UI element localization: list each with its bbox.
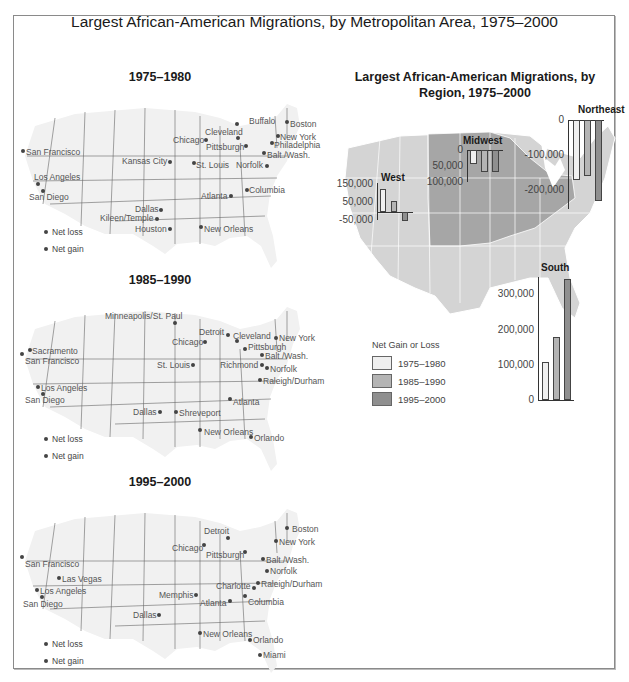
legend-dot-icon: [44, 454, 48, 458]
city-marker: [262, 151, 266, 155]
tick-label: 0: [403, 144, 463, 155]
city-label: Sacramento: [32, 347, 78, 356]
city-marker: [228, 599, 232, 603]
bar-south-2: [564, 279, 571, 400]
city-marker: [226, 333, 230, 337]
city-marker: [274, 539, 278, 543]
city-marker: [248, 638, 252, 642]
city-label: Kansas City: [122, 157, 167, 166]
bar-midwest-2: [492, 150, 499, 172]
legend-dot-icon: [44, 659, 48, 663]
city-marker: [252, 586, 256, 590]
city-marker: [191, 363, 195, 367]
legend-item-1985-1990: 1985–1990: [372, 374, 446, 388]
city-marker: [265, 569, 269, 573]
city-label: Norfolk: [236, 161, 263, 170]
city-label: Miami: [263, 651, 286, 660]
city-label: Kileen/Temple: [100, 214, 153, 223]
city-label: Boston: [292, 525, 318, 534]
city-marker: [159, 208, 163, 212]
legend-dot-icon: [44, 642, 48, 646]
city-marker: [260, 353, 264, 357]
city-label: San Diego: [25, 396, 65, 405]
map-title-0: 1975–1980: [30, 70, 290, 84]
region-label-northeast: Northeast: [578, 104, 625, 115]
y-axis: [538, 277, 539, 400]
legend-swatch: [372, 392, 392, 406]
city-label: Columbia: [248, 598, 284, 607]
tick-label: 150,000: [313, 178, 373, 189]
city-label: Minneapolis/St. Paul: [105, 312, 183, 321]
tick-label: -50,000: [313, 214, 373, 225]
city-label: Dallas: [133, 611, 157, 620]
city-marker: [168, 227, 172, 231]
bar-northeast-1: [584, 120, 591, 176]
city-label: Los Angeles: [40, 587, 86, 596]
city-label: New Orleans: [203, 630, 252, 639]
city-label: St. Louis: [157, 361, 190, 370]
city-label: Norfolk: [270, 365, 297, 374]
city-marker: [274, 336, 278, 340]
city-marker: [203, 340, 207, 344]
map-title-2: 1995–2000: [30, 475, 290, 489]
legend-dot-icon: [44, 247, 48, 251]
map-legend-gain: Net gain: [44, 451, 84, 461]
legend-label: 1985–1990: [398, 376, 446, 387]
legend-label: Net gain: [52, 656, 84, 666]
city-label: San Francisco: [26, 148, 80, 157]
city-label: Shreveport: [179, 409, 221, 418]
city-label: Norfolk: [270, 567, 297, 576]
bar-west-0: [380, 189, 386, 212]
bar-west-2: [402, 212, 408, 221]
city-label: Orlando: [254, 434, 284, 443]
tick-label: 0: [474, 394, 534, 405]
city-label: Las Vegas: [62, 575, 102, 584]
region-label-west: West: [381, 172, 405, 183]
city-label: Columbia: [249, 186, 285, 195]
city-marker: [249, 435, 253, 439]
tick-label: 50,000: [313, 196, 373, 207]
legend-label: Net gain: [52, 244, 84, 254]
city-label: Dallas: [133, 408, 157, 417]
legend-swatch: [372, 356, 392, 370]
city-marker: [198, 631, 202, 635]
map-title-1: 1985–1990: [30, 273, 290, 287]
city-label: Balt./Wash.: [265, 352, 308, 361]
bar-midwest-1: [481, 150, 488, 172]
city-label: New York: [279, 538, 315, 547]
city-marker: [21, 149, 25, 153]
legend-label: 1995–2000: [398, 394, 446, 405]
city-label: Buffalo: [249, 117, 275, 126]
city-marker: [258, 378, 262, 382]
city-label: Raleigh/Durham: [261, 580, 322, 589]
bar-south-1: [553, 337, 560, 400]
city-marker: [57, 576, 61, 580]
city-label: Pittsburgh: [206, 551, 244, 560]
city-label: New Orleans: [204, 225, 253, 234]
city-label: Los Angeles: [34, 173, 80, 182]
city-label: Atlanta: [233, 398, 259, 407]
legend-label: Net loss: [52, 639, 83, 649]
legend-item-1975-1980: 1975–1980: [372, 356, 446, 370]
city-label: Philadelphia: [274, 141, 320, 150]
main-title: Largest African-American Migrations, by …: [0, 13, 629, 31]
city-marker: [174, 410, 178, 414]
regional-title-line2: Region, 1975–2000: [340, 85, 610, 101]
city-marker: [155, 217, 159, 221]
city-label: Balt./Wash.: [267, 151, 310, 160]
tick-label: 50,000: [403, 160, 463, 171]
city-marker: [199, 225, 203, 229]
city-marker: [198, 428, 202, 432]
city-marker: [265, 164, 269, 168]
city-marker: [158, 410, 162, 414]
y-axis: [467, 150, 468, 182]
tick-label: 100,000: [474, 359, 534, 370]
legend-dot-icon: [44, 437, 48, 441]
legend-item-1995-2000: 1995–2000: [372, 392, 446, 406]
city-marker: [258, 653, 262, 657]
city-label: Los Angeles: [41, 384, 87, 393]
city-label: Memphis: [159, 591, 193, 600]
city-label: Pittsburgh: [206, 143, 244, 152]
region-label-south: South: [541, 262, 569, 273]
city-marker: [256, 581, 260, 585]
